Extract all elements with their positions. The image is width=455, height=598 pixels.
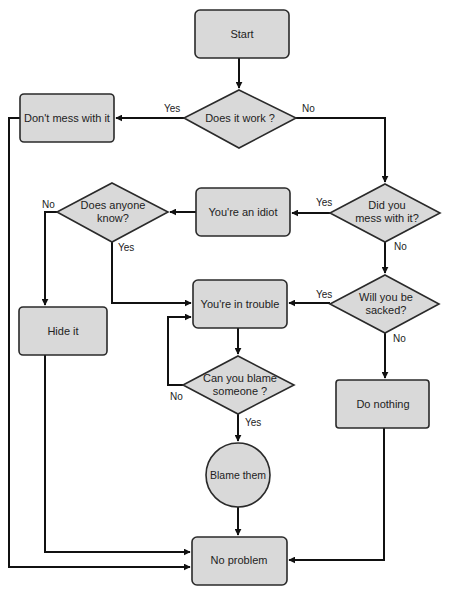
edge-know-no-to-hide-it	[45, 212, 57, 305]
node-do-nothing: Do nothing	[336, 380, 429, 428]
node-start-label: Start	[230, 28, 253, 40]
node-does-anyone-know: Does anyone know?	[57, 183, 168, 242]
node-blame-them: Blame them	[206, 443, 270, 507]
edge-blame-no-to-trouble	[168, 317, 191, 385]
node-will-you-be-sacked-label-1: Will you be	[359, 291, 413, 303]
node-youre-in-trouble: You're in trouble	[193, 280, 287, 328]
node-can-you-blame: Can you blame someone ?	[183, 356, 294, 414]
node-did-you-mess-label-2: mess with it?	[355, 212, 419, 224]
node-dont-mess: Don't mess with it	[20, 94, 114, 142]
edge-label-sacked-yes: Yes	[316, 289, 332, 300]
edge-label-know-no: No	[42, 199, 55, 210]
node-no-problem-label: No problem	[211, 554, 268, 566]
node-does-it-work: Does it work ?	[184, 90, 296, 148]
edge-work-no-to-did-you-mess	[296, 118, 385, 182]
node-does-anyone-know-label-2: know?	[97, 212, 129, 224]
node-youre-an-idiot: You're an idiot	[196, 188, 290, 236]
node-youre-an-idiot-label: You're an idiot	[209, 206, 278, 218]
node-blame-them-label: Blame them	[210, 469, 266, 481]
edge-label-blame-yes: Yes	[245, 417, 261, 428]
node-will-you-be-sacked: Will you be sacked?	[330, 275, 439, 333]
nodes: Start Does it work ? Don't mess with it …	[19, 10, 440, 585]
edge-label-know-yes: Yes	[118, 242, 134, 253]
flowchart: Yes No Yes No No Yes Yes No No Yes Start…	[0, 0, 455, 598]
edge-label-mess-no: No	[394, 241, 407, 252]
node-can-you-blame-label-1: Can you blame	[203, 372, 277, 384]
node-does-it-work-label: Does it work ?	[205, 112, 275, 124]
node-youre-in-trouble-label: You're in trouble	[201, 298, 280, 310]
edge-do-nothing-to-no-problem	[289, 428, 384, 560]
edge-label-sacked-no: No	[393, 333, 406, 344]
node-hide-it-label: Hide it	[47, 325, 78, 337]
node-hide-it: Hide it	[19, 307, 107, 355]
node-start: Start	[195, 10, 289, 58]
node-did-you-mess: Did you mess with it?	[330, 184, 440, 242]
edge-label-mess-yes: Yes	[316, 197, 332, 208]
edge-label-work-no: No	[302, 103, 315, 114]
node-did-you-mess-label-1: Did you	[368, 199, 405, 211]
node-does-anyone-know-label-1: Does anyone	[81, 199, 146, 211]
node-can-you-blame-label-2: someone ?	[213, 385, 267, 397]
edge-label-work-yes: Yes	[164, 103, 180, 114]
node-no-problem: No problem	[192, 537, 287, 585]
edge-label-blame-no: No	[170, 391, 183, 402]
node-do-nothing-label: Do nothing	[356, 398, 409, 410]
node-dont-mess-label: Don't mess with it	[24, 112, 110, 124]
node-will-you-be-sacked-label-2: sacked?	[366, 304, 407, 316]
